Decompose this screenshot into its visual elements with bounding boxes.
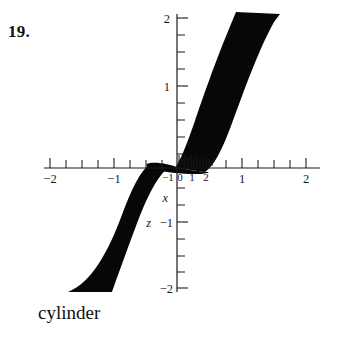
axis-label-z: z xyxy=(145,216,151,230)
plot-svg: −2 −1 1 2 −1 0 1 2 xyxy=(0,0,347,342)
ytick-label-1: 1 xyxy=(164,80,170,94)
ytick-label-2: 2 xyxy=(164,12,170,26)
ytick-label-neg1: −1 xyxy=(160,216,173,230)
xtick-label-neg2: −2 xyxy=(43,172,56,186)
depthtick-label-1: 1 xyxy=(189,171,195,183)
figure-caption: cylinder xyxy=(38,302,100,324)
ytick-label-neg2: −2 xyxy=(160,282,173,296)
surface-upper-branch xyxy=(176,12,280,172)
xtick-label-1: 1 xyxy=(239,172,245,186)
depthtick-label-0: 0 xyxy=(177,171,183,183)
cylinder-surface xyxy=(68,12,280,292)
axis-label-x: x xyxy=(161,191,168,205)
depthtick-label-2: 2 xyxy=(203,171,209,183)
xtick-label-2: 2 xyxy=(303,172,309,186)
vertical-axis: 2 1 −1 −2 x z xyxy=(145,12,188,296)
figure-cylinder: 19. −2 −1 xyxy=(0,0,347,342)
depthtick-label-neg1: −1 xyxy=(162,171,174,183)
xtick-label-neg1: −1 xyxy=(107,172,120,186)
